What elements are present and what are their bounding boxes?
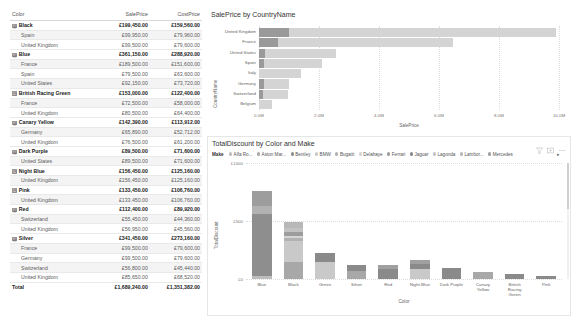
legend-item[interactable]: Alfa Ro... xyxy=(229,152,252,157)
bar-category-label: Spain xyxy=(245,60,256,65)
legend-item[interactable]: Mercedes xyxy=(488,152,513,157)
column-chart-scrollbar[interactable] xyxy=(567,163,569,279)
table-row[interactable]: ⊟Dark Purple£89,500.00£71,600.00 xyxy=(10,146,202,156)
legend-item[interactable]: Bugatti xyxy=(335,152,354,157)
column-chart-legend[interactable]: Make Alfa Ro...Aston Mar...BentleyBMWBug… xyxy=(212,151,560,157)
table-row[interactable]: United Kingdom£56,950.00£45,560.00 xyxy=(10,224,202,234)
bar-row[interactable]: Spain xyxy=(259,59,559,68)
table-row[interactable]: ⊟Night Blue£156,450.00£125,160.00 xyxy=(10,166,202,176)
bar-row[interactable]: France xyxy=(259,38,559,47)
column-group[interactable]: Green xyxy=(315,253,335,279)
x-axis-tick-label: 2.0M xyxy=(314,113,324,118)
cell-saleprice: £99,500.00 xyxy=(98,253,150,263)
column-segment xyxy=(252,276,272,279)
table-row[interactable]: Switzerland£55,450.00£44,360.00 xyxy=(10,214,202,224)
bar-row[interactable]: Italy xyxy=(259,69,559,78)
legend-item[interactable]: Bentley xyxy=(291,152,311,157)
table-row[interactable]: Total£1,689,240.00£1,351,382.00 xyxy=(10,282,202,291)
cell-saleprice: £142,390.00 xyxy=(98,117,150,127)
table-row[interactable]: United Kingdom£99,500.00£79,600.00 xyxy=(10,40,202,50)
row-label: ⊟Night Blue xyxy=(10,166,98,176)
cell-costprice: £89,920.00 xyxy=(150,205,202,215)
cell-costprice: £79,600.00 xyxy=(150,40,202,50)
column-category-label: Red xyxy=(375,282,401,287)
row-expander-icon[interactable]: ⊟ xyxy=(12,150,17,155)
column-group[interactable]: Canary Yellow xyxy=(473,272,493,279)
table-row[interactable]: Germany£65,890.00£52,712.00 xyxy=(10,127,202,137)
table-row[interactable]: Spain£99,950.00£79,960.00 xyxy=(10,30,202,40)
table-row[interactable]: United States£92,150.00£73,720.00 xyxy=(10,79,202,89)
column-group[interactable]: Black xyxy=(284,222,304,279)
cell-costprice: £58,000.00 xyxy=(150,98,202,108)
legend-item[interactable]: Aston Mar... xyxy=(257,152,286,157)
table-row[interactable]: ⊟Canary Yellow£142,390.00£113,912.00 xyxy=(10,117,202,127)
row-expander-icon[interactable]: ⊟ xyxy=(12,208,17,213)
column-chart-visual[interactable]: TotalDiscount by Color and Make Make Alf… xyxy=(207,136,571,316)
legend-item[interactable]: Lagonda xyxy=(433,152,455,157)
column-header-costprice[interactable]: CostPrice xyxy=(150,10,202,21)
table-row[interactable]: United States£89,500.00£71,600.00 xyxy=(10,156,202,166)
row-expander-icon[interactable]: ⊟ xyxy=(12,91,17,96)
table-row[interactable]: France£99,500.00£79,600.00 xyxy=(10,243,202,253)
row-expander-icon[interactable]: ⊟ xyxy=(12,121,17,126)
legend-item[interactable]: BMW xyxy=(315,152,331,157)
table-row[interactable]: ⊟Red£112,400.00£89,920.00 xyxy=(10,205,202,215)
row-label: ⊟Dark Purple xyxy=(10,146,98,156)
legend-label: BMW xyxy=(320,152,331,157)
table-row[interactable]: France£72,500.00£58,000.00 xyxy=(10,98,202,108)
table-row[interactable]: ⊟Pink£133,450.00£106,760.00 xyxy=(10,185,202,195)
table-row[interactable]: United Kingdom£76,500.00£61,200.00 xyxy=(10,137,202,147)
column-header-saleprice[interactable]: SalePrice xyxy=(98,10,150,21)
cell-saleprice: £55,450.00 xyxy=(98,214,150,224)
row-expander-icon[interactable]: ⊟ xyxy=(12,24,17,29)
cell-saleprice: £199,450.00 xyxy=(98,21,150,31)
matrix-visual[interactable]: Color SalePrice CostPrice ⊟Black£199,450… xyxy=(10,10,202,300)
bar-segment xyxy=(259,49,336,58)
row-label: ⊟Blue xyxy=(10,50,98,60)
legend-item[interactable]: Ferrari xyxy=(387,152,405,157)
cell-saleprice: £65,890.00 xyxy=(98,127,150,137)
cell-saleprice: £133,450.00 xyxy=(98,185,150,195)
row-expander-icon[interactable]: ⊟ xyxy=(12,53,17,58)
table-row[interactable]: United Kingdom£133,450.00£106,760.00 xyxy=(10,195,202,205)
legend-item[interactable]: Jaguar xyxy=(410,152,429,157)
column-group[interactable]: Dark Purple xyxy=(442,268,462,279)
table-row[interactable]: Switzerland£56,800.00£45,440.00 xyxy=(10,263,202,273)
table-row[interactable]: France£189,500.00£151,600.00 xyxy=(10,59,202,69)
column-segment xyxy=(505,274,525,279)
legend-label: Lambor... xyxy=(464,152,483,157)
table-row[interactable]: ⊟Blue£361,150.00£288,920.00 xyxy=(10,50,202,60)
table-row[interactable]: Spain£79,500.00£63,600.00 xyxy=(10,69,202,79)
table-row[interactable]: ⊟Silver£341,450.00£273,160.00 xyxy=(10,234,202,244)
column-group[interactable]: British Racing Green xyxy=(505,274,525,279)
table-row[interactable]: United Kingdom£156,450.00£125,160.00 xyxy=(10,176,202,186)
row-label: France xyxy=(10,243,98,253)
legend-next-arrow-icon[interactable]: ▸ xyxy=(557,151,560,157)
bar-chart-visual[interactable]: SalePrice by CountryName CountryName Uni… xyxy=(207,8,571,132)
table-row[interactable]: Germany£99,500.00£79,600.00 xyxy=(10,253,202,263)
column-group[interactable]: Night Blue xyxy=(410,260,430,279)
table-row[interactable]: United Kingdom£80,500.00£64,400.00 xyxy=(10,108,202,118)
column-group[interactable]: Red xyxy=(378,265,398,279)
bar-row[interactable]: Belgium xyxy=(259,100,559,109)
column-group[interactable]: Blue xyxy=(252,191,272,279)
bar-row[interactable]: Germany xyxy=(259,79,559,88)
table-row[interactable]: ⊟Black£199,450.00£159,560.00 xyxy=(10,21,202,31)
bar-row[interactable]: United Kingdom xyxy=(259,28,559,37)
table-row[interactable]: ⊟British Racing Green£153,000.00£122,400… xyxy=(10,88,202,98)
column-chart-title: TotalDiscount by Color and Make xyxy=(208,137,570,147)
column-group[interactable]: Pink xyxy=(536,276,556,279)
row-expander-icon[interactable]: ⊟ xyxy=(12,188,17,193)
bar-row[interactable]: United States xyxy=(259,49,559,58)
legend-item[interactable]: Lambor... xyxy=(460,152,484,157)
bar-chart-y-axis-title: CountryName xyxy=(213,80,218,108)
column-group[interactable]: Silver xyxy=(347,265,367,279)
legend-item[interactable]: Delahaye xyxy=(359,152,383,157)
bar-row[interactable]: Switzerland xyxy=(259,90,559,99)
table-row[interactable]: United Kingdom£85,650.00£68,520.00 xyxy=(10,272,202,282)
row-expander-icon[interactable]: ⊟ xyxy=(12,237,17,242)
column-header-color[interactable]: Color xyxy=(10,10,98,21)
row-expander-icon[interactable]: ⊟ xyxy=(12,169,17,174)
column-category-label: Blue xyxy=(249,282,275,287)
bar-segment xyxy=(259,69,301,78)
